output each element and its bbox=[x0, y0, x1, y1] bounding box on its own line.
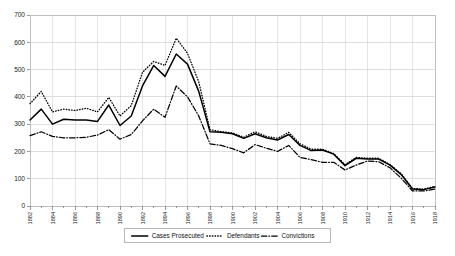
y-tick-label: 500 bbox=[14, 66, 25, 73]
x-axis-ticks bbox=[30, 206, 435, 210]
y-tick-label: 100 bbox=[14, 175, 25, 182]
x-tick-label: 1882 bbox=[27, 212, 33, 224]
x-tick-label: 1918 bbox=[432, 212, 438, 224]
x-tick-label: 1892 bbox=[140, 212, 146, 224]
y-tick-label: 700 bbox=[14, 11, 25, 18]
y-tick-label: 300 bbox=[14, 120, 25, 127]
x-tick-label: 1906 bbox=[297, 212, 303, 224]
x-tick-label: 1896 bbox=[185, 212, 191, 224]
y-tick-label: 600 bbox=[14, 39, 25, 46]
y-tick-label: 400 bbox=[14, 93, 25, 100]
x-tick-label: 1902 bbox=[252, 212, 258, 224]
x-axis-tick-labels: 1882188418861888189018921894189618981900… bbox=[27, 212, 438, 224]
x-tick-label: 1898 bbox=[207, 212, 213, 224]
chart-legend: Cases ProsecutedDefendantsConvictions bbox=[125, 228, 331, 242]
x-tick-label: 1912 bbox=[365, 212, 371, 224]
x-tick-label: 1914 bbox=[387, 212, 393, 224]
y-axis-tick-labels: 0100200300400500600700 bbox=[14, 11, 25, 209]
chart-container: 0100200300400500600700 18821884188618881… bbox=[0, 0, 455, 256]
line-chart: 0100200300400500600700 18821884188618881… bbox=[0, 0, 455, 256]
x-tick-label: 1910 bbox=[342, 212, 348, 224]
y-tick-label: 200 bbox=[14, 148, 25, 155]
x-tick-label: 1904 bbox=[275, 212, 281, 224]
x-tick-label: 1888 bbox=[95, 212, 101, 224]
y-tick-label: 0 bbox=[21, 202, 25, 209]
x-tick-label: 1886 bbox=[72, 212, 78, 224]
legend-label: Cases Prosecuted bbox=[152, 232, 205, 239]
x-tick-label: 1916 bbox=[410, 212, 416, 224]
legend-label: Convictions bbox=[281, 232, 314, 239]
x-tick-label: 1900 bbox=[230, 212, 236, 224]
x-tick-label: 1908 bbox=[320, 212, 326, 224]
x-tick-label: 1884 bbox=[50, 212, 56, 224]
legend-label: Defendants bbox=[227, 232, 260, 239]
y-axis-ticks bbox=[27, 15, 30, 206]
x-tick-label: 1894 bbox=[162, 212, 168, 224]
x-tick-label: 1890 bbox=[117, 212, 123, 224]
